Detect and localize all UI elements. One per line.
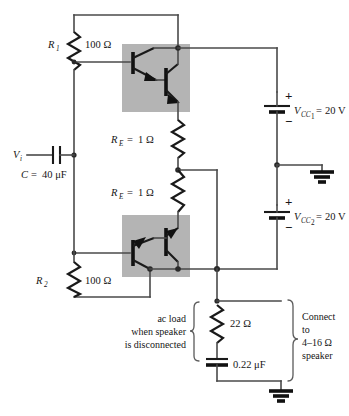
r1-value: 100 Ω: [85, 39, 111, 50]
vcc1-equals: =: [316, 105, 322, 116]
input-source-designator-sub: i: [20, 155, 22, 163]
re-lower-designator-sub: E: [118, 193, 124, 201]
re-lower-designator: R: [110, 187, 118, 198]
input-cap-equals: =: [31, 169, 37, 180]
re-upper-designator-sub: E: [118, 140, 124, 148]
load-resistor-value: 22 Ω: [230, 318, 251, 329]
vcc2-plus-sign: +: [285, 194, 292, 209]
resistor-r2-body: [68, 262, 80, 297]
re-upper-designator: R: [110, 134, 118, 145]
r2-value: 100 Ω: [85, 275, 111, 286]
speaker-note-line4: speaker: [302, 350, 333, 361]
r1-designator-sub: 1: [56, 45, 60, 53]
vcc2-equals: =: [316, 211, 322, 222]
vcc1-value: 20 V: [325, 105, 346, 116]
ac-load-note-line2: when speaker: [131, 326, 186, 337]
resistor-re-upper-body: [172, 120, 184, 158]
vcc2-value: 20 V: [325, 211, 346, 222]
re-lower-value: 1 Ω: [138, 187, 154, 198]
speaker-note-line1: Connect: [302, 311, 336, 322]
r1-designator: R: [47, 39, 55, 50]
ac-load-note-line3: is disconnected: [125, 339, 186, 350]
circuit-diagram-root: R 1 100 Ω R 2 100 Ω R E = 1 Ω R E = 1 Ω …: [0, 0, 349, 416]
re-lower-equals: =: [127, 187, 133, 198]
input-cap-designator: C: [21, 169, 29, 180]
vcc2-designator-sub2: 2: [311, 219, 315, 227]
r2-designator-sub: 2: [44, 281, 48, 289]
vcc2-minus-sign: −: [285, 220, 292, 235]
ac-load-note-line1: ac load: [157, 313, 186, 324]
ac-load-brace: [190, 302, 199, 361]
r2-designator: R: [35, 275, 43, 286]
speaker-note-line2: to: [302, 324, 310, 335]
vcc1-designator-sub: CC: [301, 111, 311, 119]
re-upper-value: 1 Ω: [138, 134, 154, 145]
input-cap-value: 40 μF: [42, 169, 67, 180]
load-cap-value: 0.22 μF: [233, 359, 266, 370]
junction-q4-collector: [175, 266, 181, 272]
resistor-load-22-body: [211, 305, 223, 343]
speaker-note-line3: 4–16 Ω: [302, 337, 332, 348]
vcc1-designator-sub2: 1: [311, 113, 315, 121]
speaker-brace: [288, 300, 298, 381]
resistor-re-lower-body: [172, 170, 184, 212]
vcc1-minus-sign: −: [285, 114, 292, 129]
junction-r1-q1base: [72, 60, 77, 65]
re-upper-equals: =: [127, 134, 133, 145]
vcc1-plus-sign: +: [285, 88, 292, 103]
schematic-svg: R 1 100 Ω R 2 100 Ω R E = 1 Ω R E = 1 Ω …: [0, 0, 349, 416]
vcc2-designator-sub: CC: [301, 217, 311, 225]
